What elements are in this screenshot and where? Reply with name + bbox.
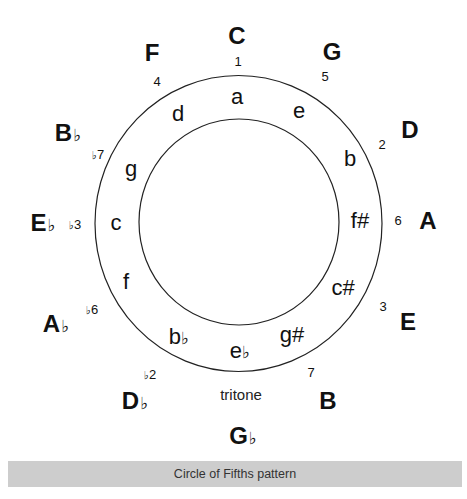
minor-key-e: e xyxy=(293,100,305,122)
degree-flat-3: ♭3 xyxy=(69,218,81,231)
minor-key-text: g xyxy=(125,156,137,181)
major-key-a: A xyxy=(419,209,436,233)
minor-key-text: f xyxy=(123,269,129,294)
degree-7: 7 xyxy=(307,366,314,379)
major-key-f: F xyxy=(145,41,160,65)
minor-key-text: d xyxy=(172,101,184,126)
flat-sign: ♭ xyxy=(242,343,250,362)
major-key-text: E xyxy=(400,308,416,335)
degree-3: 3 xyxy=(379,300,386,313)
flat-sign: ♭ xyxy=(140,394,148,413)
major-key-flat-b: B♭ xyxy=(55,121,81,145)
minor-key-flat-e: e♭ xyxy=(230,340,250,362)
major-key-d: D xyxy=(401,118,418,142)
minor-key-f: f xyxy=(123,271,129,293)
minor-key-text: c xyxy=(111,210,122,235)
major-key-flat-a: A♭ xyxy=(43,312,69,336)
inner-ring xyxy=(139,119,339,325)
flat-sign: ♭ xyxy=(61,317,69,336)
degree-flat-7: ♭7 xyxy=(92,148,104,161)
minor-key-flat-b: b♭ xyxy=(169,326,189,348)
degree-text: 7 xyxy=(97,147,104,162)
minor-key-f-sharp: f# xyxy=(351,210,369,232)
degree-1: 1 xyxy=(234,55,241,68)
degree-text: 2 xyxy=(149,367,156,382)
caption-text: Circle of Fifths pattern xyxy=(174,467,296,481)
degree-text: 6 xyxy=(91,302,98,317)
major-key-text: A xyxy=(419,207,436,234)
minor-key-a: a xyxy=(231,86,243,108)
major-key-text: A xyxy=(43,310,60,337)
major-key-e: E xyxy=(400,310,416,334)
degree-text: 2 xyxy=(378,137,385,152)
major-key-flat-g: G♭ xyxy=(229,424,257,448)
major-key-b: B xyxy=(319,389,336,413)
degree-flat-6: ♭6 xyxy=(86,303,98,316)
major-key-c: C xyxy=(228,24,245,48)
minor-key-text: e xyxy=(230,338,242,363)
minor-key-g: g xyxy=(125,158,137,180)
major-key-flat-e: E♭ xyxy=(30,211,55,235)
degree-text: 1 xyxy=(234,54,241,69)
minor-key-text: e xyxy=(293,98,305,123)
major-key-text: C xyxy=(228,22,245,49)
major-key-text: B xyxy=(319,387,336,414)
degree-4: 4 xyxy=(153,75,160,88)
degree-flat-2: ♭2 xyxy=(144,368,156,381)
major-key-text: B xyxy=(55,119,72,146)
minor-key-d: d xyxy=(172,103,184,125)
minor-key-text: f# xyxy=(351,208,369,233)
minor-key-c-sharp: c# xyxy=(331,277,354,299)
degree-text: 4 xyxy=(153,74,160,89)
minor-key-text: c# xyxy=(331,275,354,300)
degree-5: 5 xyxy=(321,70,328,83)
minor-key-g-sharp: g# xyxy=(280,324,304,346)
minor-key-b: b xyxy=(344,148,356,170)
major-key-text: G xyxy=(323,38,342,65)
flat-sign: ♭ xyxy=(73,126,81,145)
minor-key-text: b xyxy=(344,146,356,171)
degree-text: 5 xyxy=(321,69,328,84)
major-key-text: D xyxy=(122,387,139,414)
caption-bar: Circle of Fifths pattern xyxy=(8,461,462,487)
flat-sign: ♭ xyxy=(249,429,257,448)
degree-text: 7 xyxy=(307,365,314,380)
major-key-g: G xyxy=(323,40,342,64)
major-key-flat-d: D♭ xyxy=(122,389,148,413)
degree-text: 6 xyxy=(394,213,401,228)
degree-text: 3 xyxy=(379,299,386,314)
circle-of-fifths-diagram: CGDAEBG♭D♭A♭E♭B♭F 152637♭2♭6♭3♭74 aebf#c… xyxy=(0,0,467,455)
flat-sign: ♭ xyxy=(181,329,189,348)
minor-key-c: c xyxy=(111,212,122,234)
flat-sign: ♭ xyxy=(47,216,55,235)
major-key-text: F xyxy=(145,39,160,66)
tritone-label: tritone xyxy=(220,387,262,402)
degree-text: 3 xyxy=(74,217,81,232)
minor-key-text: g# xyxy=(280,322,304,347)
minor-key-text: b xyxy=(169,324,181,349)
major-key-text: D xyxy=(401,116,418,143)
minor-key-text: a xyxy=(231,84,243,109)
major-key-text: G xyxy=(229,422,248,449)
degree-6: 6 xyxy=(394,214,401,227)
degree-2: 2 xyxy=(378,138,385,151)
major-key-text: E xyxy=(30,209,46,236)
